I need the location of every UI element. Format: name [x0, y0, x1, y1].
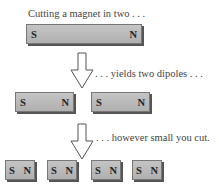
- down-arrow-icon: [72, 52, 96, 90]
- south-pole-label: S: [31, 29, 37, 40]
- magnet-half-1: S N: [15, 92, 74, 112]
- south-pole-label: S: [96, 97, 102, 108]
- magnet-whole: S N: [26, 24, 142, 44]
- south-pole-label: S: [136, 165, 142, 176]
- magnet-half-2: S N: [91, 92, 150, 112]
- north-pole-label: N: [23, 165, 31, 176]
- magnet-quarter-3: S N: [91, 160, 121, 180]
- caption-cutting: Cutting a magnet in two . . .: [28, 8, 145, 19]
- north-pole-label: N: [61, 97, 69, 108]
- down-arrow-icon: [72, 123, 96, 161]
- north-pole-label: N: [129, 29, 137, 40]
- south-pole-label: S: [20, 97, 26, 108]
- south-pole-label: S: [51, 165, 57, 176]
- caption-yields: . . . yields two dipoles . . .: [95, 68, 203, 79]
- magnet-quarter-4: S N: [132, 160, 162, 180]
- caption-however: . . . however small you cut.: [96, 132, 210, 143]
- north-pole-label: N: [65, 165, 73, 176]
- north-pole-label: N: [137, 97, 145, 108]
- north-pole-label: N: [150, 165, 158, 176]
- magnet-quarter-2: S N: [47, 160, 77, 180]
- north-pole-label: N: [109, 165, 117, 176]
- magnet-quarter-1: S N: [5, 160, 35, 180]
- south-pole-label: S: [95, 165, 101, 176]
- south-pole-label: S: [9, 165, 15, 176]
